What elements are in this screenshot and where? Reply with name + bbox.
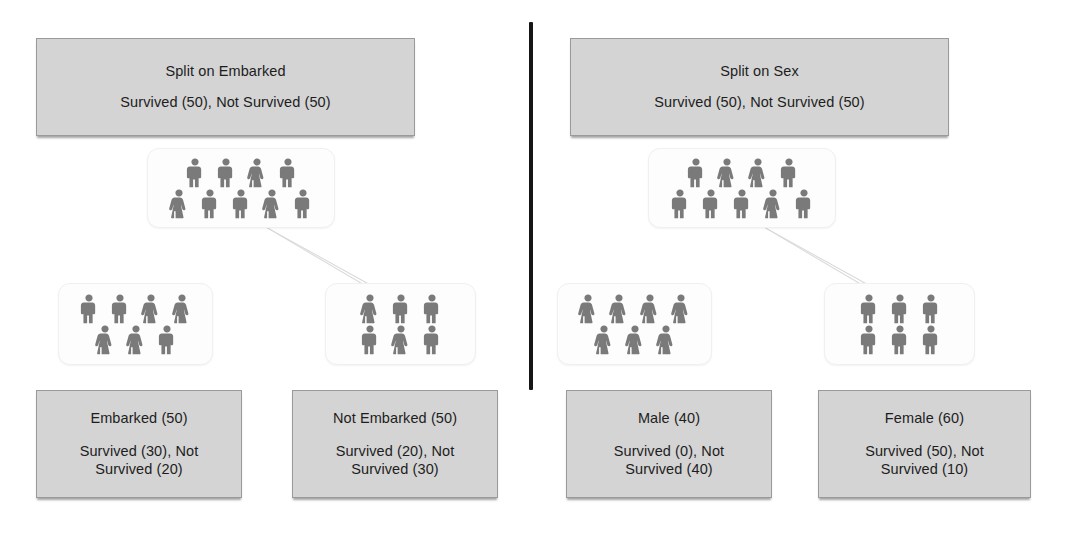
person-female-icon [387,325,415,355]
leaf-box-embarked-title: Embarked (50) [90,410,187,427]
person-female-icon [91,325,119,355]
child-node-sex-male [557,283,712,365]
person-male-icon [289,189,317,219]
person-female-icon [605,294,633,324]
root-box-embarked-stats: Survived (50), Not Survived (50) [120,93,330,111]
person-female-icon [590,325,618,355]
person-male-icon [274,158,302,188]
person-female-icon [122,325,150,355]
child-node-sex-female [824,283,975,365]
person-female-icon [713,158,741,188]
person-female-icon [258,189,286,219]
person-male-icon [775,158,803,188]
person-row [334,294,467,324]
person-male-icon [697,189,725,219]
person-female-icon [165,189,193,219]
person-row [566,294,703,324]
person-row [833,325,966,355]
leaf-box-not-embarked-stats-line1: Survived (20), Not [336,442,455,460]
person-male-icon [917,325,945,355]
person-row [67,325,204,355]
root-node-sex [648,148,836,228]
person-row [334,325,467,355]
person-male-icon [682,158,710,188]
person-male-icon [106,294,134,324]
leaf-box-not-embarked: Not Embarked (50) Survived (20), Not Sur… [292,390,498,498]
person-male-icon [886,325,914,355]
leaf-box-female: Female (60) Survived (50), Not Survived … [818,390,1031,498]
leaf-box-embarked-stats-line1: Survived (30), Not [80,442,199,460]
person-male-icon [917,294,945,324]
leaf-box-male-title: Male (40) [638,410,700,427]
leaf-box-female-stats-line2: Survived (10) [865,460,984,478]
leaf-box-not-embarked-title: Not Embarked (50) [333,410,457,427]
person-male-icon [387,294,415,324]
leaf-box-female-stats: Survived (50), Not Survived (10) [865,442,984,478]
person-male-icon [212,158,240,188]
panel-divider [529,22,533,390]
person-female-icon [667,294,695,324]
person-male-icon [886,294,914,324]
leaf-box-male-stats-line2: Survived (40) [614,460,725,478]
root-box-sex-stats: Survived (50), Not Survived (50) [654,93,864,111]
root-node-embarked [147,148,335,228]
leaf-box-embarked-stats-line2: Survived (20) [80,460,199,478]
person-row [657,158,827,188]
person-female-icon [744,158,772,188]
leaf-box-embarked-stats: Survived (30), Not Survived (20) [80,442,199,478]
person-female-icon [137,294,165,324]
person-male-icon [75,294,103,324]
person-male-icon [153,325,181,355]
leaf-box-not-embarked-stats-line2: Survived (30) [336,460,455,478]
leaf-box-male: Male (40) Survived (0), Not Survived (40… [566,390,772,498]
person-male-icon [418,325,446,355]
person-male-icon [356,325,384,355]
leaf-box-female-title: Female (60) [885,410,964,427]
root-box-sex: Split on Sex Survived (50), Not Survived… [570,38,949,136]
person-female-icon [574,294,602,324]
person-male-icon [855,325,883,355]
person-female-icon [168,294,196,324]
person-female-icon [636,294,664,324]
root-box-sex-title: Split on Sex [720,63,799,80]
person-female-icon [243,158,271,188]
person-male-icon [728,189,756,219]
leaf-box-not-embarked-stats: Survived (20), Not Survived (30) [336,442,455,478]
child-node-embarked-no [325,283,476,365]
person-male-icon [418,294,446,324]
person-male-icon [855,294,883,324]
person-row [566,325,703,355]
person-male-icon [227,189,255,219]
child-node-embarked-yes [58,283,213,365]
person-row [67,294,204,324]
root-box-embarked-title: Split on Embarked [165,63,285,80]
leaf-box-male-stats-line1: Survived (0), Not [614,442,725,460]
person-row [833,294,966,324]
figure-canvas: Split on Embarked Survived (50), Not Sur… [0,0,1088,550]
person-female-icon [759,189,787,219]
person-row [156,189,326,219]
leaf-box-female-stats-line1: Survived (50), Not [865,442,984,460]
root-box-embarked: Split on Embarked Survived (50), Not Sur… [36,38,415,136]
person-male-icon [790,189,818,219]
person-female-icon [356,294,384,324]
person-female-icon [621,325,649,355]
person-male-icon [181,158,209,188]
person-row [156,158,326,188]
person-female-icon [652,325,680,355]
leaf-box-male-stats: Survived (0), Not Survived (40) [614,442,725,478]
person-male-icon [196,189,224,219]
leaf-box-embarked: Embarked (50) Survived (30), Not Survive… [36,390,242,498]
person-male-icon [666,189,694,219]
person-row [657,189,827,219]
